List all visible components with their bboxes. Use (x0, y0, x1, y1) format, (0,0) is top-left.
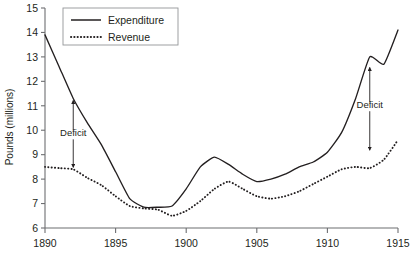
data-series-group (45, 30, 398, 216)
y-axis-title: Pounds (millions) (4, 89, 15, 166)
y-tick-label: 13 (26, 51, 38, 63)
y-tick-label: 9 (32, 148, 38, 160)
deficit-annotation: Deficit (60, 100, 87, 167)
x-tick-label: 1895 (104, 237, 128, 249)
expenditure-revenue-line-chart: 6789101112131415 18901895190019051910191… (0, 0, 411, 254)
y-tick-label: 14 (26, 26, 38, 38)
legend-label: Revenue (108, 31, 150, 43)
x-tick-label: 1900 (175, 237, 199, 249)
series-line-revenue (45, 140, 398, 216)
x-tick-label: 1915 (386, 237, 410, 249)
y-tick-label: 10 (26, 124, 38, 136)
x-tick-label: 1910 (316, 237, 340, 249)
x-tick-label: 1890 (33, 237, 57, 249)
chart-legend: ExpenditureRevenue (63, 8, 178, 45)
y-tick-label: 11 (27, 100, 38, 112)
deficit-annotation: Deficit (357, 67, 384, 150)
y-tick-label: 8 (32, 173, 38, 185)
annotation-group: DeficitDeficit (60, 67, 383, 167)
legend-label: Expenditure (108, 14, 164, 26)
deficit-label: Deficit (357, 99, 384, 110)
y-tick-label: 12 (26, 75, 38, 87)
series-line-expenditure (45, 30, 398, 208)
y-tick-label: 6 (32, 222, 38, 234)
deficit-label: Deficit (60, 127, 87, 138)
chart-plot-area: 6789101112131415 18901895190019051910191… (0, 0, 411, 254)
y-axis: 6789101112131415 (26, 2, 45, 234)
x-tick-label: 1905 (245, 237, 269, 249)
x-axis: 189018951900190519101915 (33, 228, 410, 249)
y-tick-label: 15 (26, 2, 38, 14)
y-tick-label: 7 (32, 197, 38, 209)
